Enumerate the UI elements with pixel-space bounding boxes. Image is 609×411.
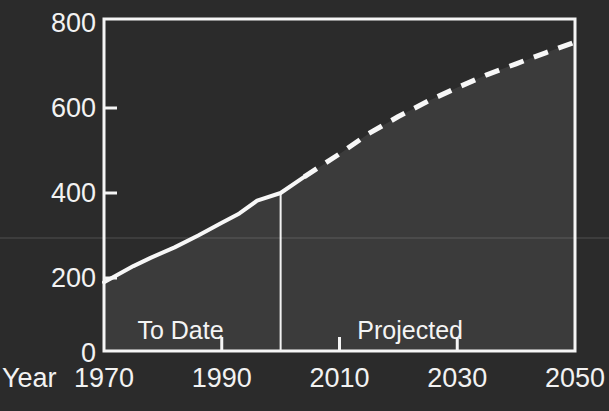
y-axis-tick-marks	[104, 108, 117, 278]
x-axis-tick-label-2010: 2010	[309, 365, 369, 392]
annotation-to-date: To Date	[137, 317, 223, 342]
y-axis-tick-label-200: 200	[51, 265, 96, 292]
y-axis-tick-label-600: 600	[51, 95, 96, 122]
x-axis-title: Year	[2, 365, 57, 392]
x-axis-tick-label-2050: 2050	[545, 365, 605, 392]
y-axis-tick-label-400: 400	[51, 180, 96, 207]
x-axis-tick-label-1990: 1990	[192, 365, 252, 392]
area-under-curve-fill	[104, 42, 575, 351]
annotation-projected: Projected	[357, 317, 463, 342]
chart-screenshot: 800 600 400 200 0 Year 1970 1990 2010 20…	[0, 0, 609, 411]
y-axis-tick-label-800: 800	[51, 10, 96, 37]
x-axis-tick-label-2030: 2030	[427, 365, 487, 392]
x-axis-tick-label-1970: 1970	[74, 365, 134, 392]
